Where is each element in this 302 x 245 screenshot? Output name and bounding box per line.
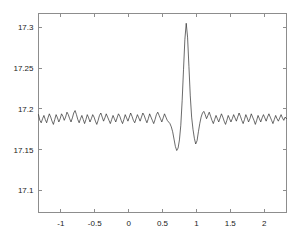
x-tick-label: 1.5	[225, 219, 237, 228]
y-tick-label: 17.2	[18, 105, 34, 114]
x-tick-label: -1	[57, 219, 65, 228]
x-tick-label: 1	[194, 219, 199, 228]
x-tick-label: 0	[126, 219, 131, 228]
x-tick-label: 2	[262, 219, 267, 228]
y-tick-label: 17.25	[13, 64, 34, 73]
y-tick-label: 17.15	[13, 146, 34, 155]
figure-panel: -1-0.500.511.52 17.117.1517.217.2517.3	[0, 0, 302, 245]
chart-background	[0, 0, 302, 245]
y-tick-label: 17.1	[18, 186, 34, 195]
line-chart: -1-0.500.511.52 17.117.1517.217.2517.3	[0, 0, 302, 245]
x-tick-label: -0.5	[88, 219, 102, 228]
x-axis-tick-labels: -1-0.500.511.52	[57, 219, 267, 228]
x-tick-label: 0.5	[157, 219, 169, 228]
y-tick-label: 17.3	[18, 23, 34, 32]
